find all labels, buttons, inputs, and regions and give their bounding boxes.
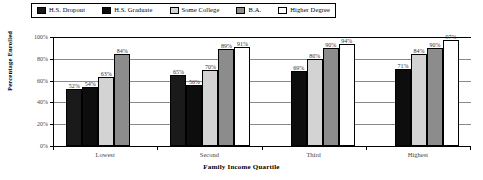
bar-slot: 71%: [395, 37, 411, 146]
bar[interactable]: 90%: [323, 48, 339, 146]
bar[interactable]: 97%: [443, 40, 459, 146]
bar[interactable]: 80%: [307, 59, 323, 146]
bar-slot: 65%: [170, 37, 186, 146]
bar-slot: [379, 37, 395, 146]
bar-slot: 54%: [82, 37, 98, 146]
y-axis-tick-label: 100%: [34, 34, 48, 40]
bar[interactable]: 89%: [218, 49, 234, 146]
bar-slot: 84%: [114, 37, 130, 146]
legend-item-hs-dropout: H.S. Dropout: [37, 7, 85, 14]
bar-value-label: 90%: [325, 42, 336, 48]
bar-groups: 52%54%63%84%65%56%70%89%91%69%80%90%94%7…: [54, 37, 471, 146]
bar-slot: 84%: [411, 37, 427, 146]
bar-value-label: 84%: [117, 48, 128, 54]
x-axis-title: Family Income Quartile: [0, 163, 483, 171]
bar-slot: 63%: [98, 37, 114, 146]
legend-label: Higher Degree: [290, 7, 330, 14]
legend-swatch-icon: [37, 7, 46, 14]
bar-value-label: 89%: [221, 43, 232, 49]
bar-slot: 90%: [427, 37, 443, 146]
bar-value-label: 90%: [429, 42, 440, 48]
bar-value-label: 84%: [413, 48, 424, 54]
bar-slot: 90%: [323, 37, 339, 146]
x-axis-tick-label: Second: [157, 152, 261, 159]
bar[interactable]: 52%: [66, 89, 82, 146]
legend-item-higher-degree: Higher Degree: [278, 7, 330, 14]
x-axis-tick: [262, 146, 263, 150]
bar-slot: 94%: [339, 37, 355, 146]
y-axis-title: Percentage Enrolled: [6, 31, 13, 91]
legend-label: H.S. Graduate: [114, 7, 152, 14]
bar-value-label: 56%: [189, 79, 200, 85]
x-axis-tick: [53, 146, 54, 150]
bar-slot: 69%: [291, 37, 307, 146]
bar[interactable]: 65%: [170, 75, 186, 146]
bar-group: 69%80%90%94%: [263, 37, 367, 146]
bar-slot: 52%: [66, 37, 82, 146]
x-axis-tick-label: Third: [262, 152, 366, 159]
legend-swatch-icon: [278, 7, 287, 14]
bar-value-label: 91%: [237, 41, 248, 47]
bar[interactable]: 70%: [202, 70, 218, 146]
bar-value-label: 94%: [341, 38, 352, 44]
bar[interactable]: 91%: [234, 47, 250, 146]
bar[interactable]: 94%: [339, 44, 355, 146]
bar-slot: 80%: [307, 37, 323, 146]
legend-label: H.S. Dropout: [49, 7, 85, 14]
bar-slot: 70%: [202, 37, 218, 146]
chart-root: H.S. Dropout H.S. Graduate Some College …: [0, 0, 483, 180]
x-axis-ticks: [53, 146, 470, 150]
plot-area: 0%20%40%60%80%100% 52%54%63%84%65%56%70%…: [53, 37, 471, 147]
bar-value-label: 70%: [205, 64, 216, 70]
x-axis-tick-label: Lowest: [53, 152, 157, 159]
bar-slot: 89%: [218, 37, 234, 146]
bar-group: 71%84%90%97%: [367, 37, 471, 146]
bar[interactable]: 69%: [291, 71, 307, 146]
x-axis-tick-label: Highest: [366, 152, 470, 159]
bar[interactable]: 90%: [427, 48, 443, 146]
bar[interactable]: 54%: [82, 87, 98, 146]
legend-label: B.A.: [248, 7, 261, 14]
bar-slot: [130, 37, 146, 146]
legend-label: Some College: [182, 7, 220, 14]
bar[interactable]: 63%: [98, 77, 114, 146]
bar-value-label: 65%: [173, 69, 184, 75]
bar-slot: 97%: [443, 37, 459, 146]
bar-slot: 91%: [234, 37, 250, 146]
bar-group: 52%54%63%84%: [54, 37, 158, 146]
bar-slot: 56%: [186, 37, 202, 146]
bar-group: 65%56%70%89%91%: [158, 37, 262, 146]
y-axis-tick-label: 20%: [37, 121, 48, 127]
bar[interactable]: 71%: [395, 69, 411, 146]
y-axis-tick-label: 80%: [37, 56, 48, 62]
bar-slot: [275, 37, 291, 146]
chart-legend: H.S. Dropout H.S. Graduate Some College …: [31, 3, 336, 18]
bar-value-label: 97%: [445, 34, 456, 40]
bar[interactable]: 56%: [186, 85, 202, 146]
bar[interactable]: 84%: [411, 54, 427, 146]
legend-item-some-college: Some College: [170, 7, 220, 14]
x-axis-labels: LowestSecondThirdHighest: [53, 152, 470, 159]
x-axis-tick: [366, 146, 367, 150]
bar-value-label: 71%: [397, 63, 408, 69]
legend-item-hs-graduate: H.S. Graduate: [102, 7, 152, 14]
x-axis-tick: [157, 146, 158, 150]
bar-value-label: 69%: [293, 65, 304, 71]
y-axis-tick-label: 0%: [40, 143, 48, 149]
legend-item-ba: B.A.: [236, 7, 261, 14]
bar-value-label: 54%: [85, 81, 96, 87]
bar-value-label: 80%: [309, 53, 320, 59]
legend-swatch-icon: [170, 7, 179, 14]
legend-swatch-icon: [102, 7, 111, 14]
bar-value-label: 52%: [69, 83, 80, 89]
x-axis-tick: [470, 146, 471, 150]
legend-swatch-icon: [236, 7, 245, 14]
bar-value-label: 63%: [101, 71, 112, 77]
bar[interactable]: 84%: [114, 54, 130, 146]
y-axis-tick-label: 40%: [37, 99, 48, 105]
y-axis-tick-label: 60%: [37, 78, 48, 84]
